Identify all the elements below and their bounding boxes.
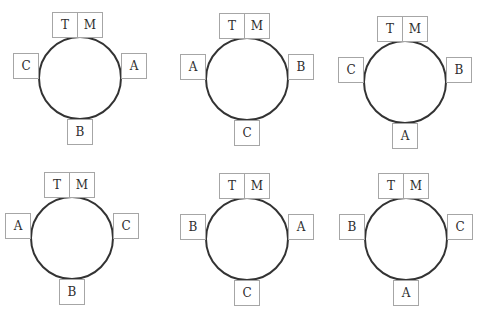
seat-right: C [113, 213, 139, 239]
seat-bottom: C [234, 280, 260, 306]
round-table [364, 197, 448, 281]
seat-top-left: T [219, 173, 245, 199]
seat-bottom: A [392, 123, 418, 149]
seat-top-right: M [244, 173, 270, 199]
seat-left: B [180, 214, 206, 240]
seat-left: C [338, 57, 364, 83]
seat-top-right: M [77, 12, 103, 38]
seat-bottom: C [234, 120, 260, 146]
seat-top-left: T [44, 172, 70, 198]
seat-right: A [121, 53, 147, 79]
seat-right: B [446, 57, 472, 83]
seat-top-right: M [402, 16, 428, 42]
seat-bottom: B [59, 279, 85, 305]
seat-top-left: T [377, 16, 403, 42]
seat-right: B [288, 54, 314, 80]
round-table [363, 40, 447, 124]
round-table [205, 37, 289, 121]
seat-bottom: B [67, 119, 93, 145]
seat-top-left: T [378, 173, 404, 199]
round-table [30, 196, 114, 280]
round-table [205, 197, 289, 281]
seat-top-left: T [219, 13, 245, 39]
seat-top-right: M [403, 173, 429, 199]
seat-left: A [5, 213, 31, 239]
seat-right: C [447, 214, 473, 240]
seat-left: C [13, 53, 39, 79]
seat-top-right: M [244, 13, 270, 39]
seat-right: A [288, 214, 314, 240]
seat-bottom: A [393, 280, 419, 306]
round-table [38, 36, 122, 120]
seat-left: B [339, 214, 365, 240]
seat-top-right: M [69, 172, 95, 198]
seat-top-left: T [52, 12, 78, 38]
seat-left: A [180, 54, 206, 80]
